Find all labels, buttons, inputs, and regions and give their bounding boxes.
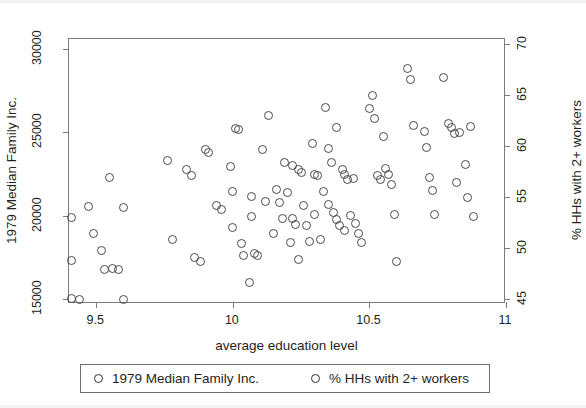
x-tick-label: 10 bbox=[202, 313, 262, 327]
data-point bbox=[390, 210, 399, 219]
data-point bbox=[370, 114, 379, 123]
data-point bbox=[97, 246, 106, 255]
data-point bbox=[163, 156, 172, 165]
data-point bbox=[392, 257, 401, 266]
y-tick-label-left: 30000 bbox=[30, 20, 44, 76]
data-point bbox=[226, 162, 235, 171]
data-point bbox=[439, 73, 448, 82]
data-point bbox=[357, 238, 366, 247]
legend-label-workers: % HHs with 2+ workers bbox=[329, 371, 469, 386]
y-tick-right bbox=[504, 197, 510, 198]
data-point bbox=[302, 221, 311, 230]
legend-entry-workers[interactable]: % HHs with 2+ workers bbox=[311, 371, 469, 386]
x-tick-label: 10.5 bbox=[338, 313, 398, 327]
x-tick bbox=[233, 302, 234, 308]
data-point bbox=[275, 198, 284, 207]
y-tick-right bbox=[504, 248, 510, 249]
data-point bbox=[316, 235, 325, 244]
data-point bbox=[466, 122, 475, 131]
x-tick bbox=[506, 302, 507, 308]
data-point bbox=[278, 214, 287, 223]
legend: 1979 Median Family Inc. % HHs with 2+ wo… bbox=[80, 364, 490, 393]
data-point bbox=[327, 158, 336, 167]
data-point bbox=[420, 127, 429, 136]
data-point bbox=[228, 223, 237, 232]
y-tick-right bbox=[504, 95, 510, 96]
data-point bbox=[119, 203, 128, 212]
data-point bbox=[245, 278, 254, 287]
data-point bbox=[258, 145, 267, 154]
data-point bbox=[332, 123, 341, 132]
data-point bbox=[425, 173, 434, 182]
data-point bbox=[469, 212, 478, 221]
legend-label-income: 1979 Median Family Inc. bbox=[112, 371, 259, 386]
data-point bbox=[324, 144, 333, 153]
data-point bbox=[384, 170, 393, 179]
y-tick-right bbox=[504, 44, 510, 45]
y-tick-label-right: 55 bbox=[515, 178, 529, 214]
data-point bbox=[349, 174, 358, 183]
data-point bbox=[84, 202, 93, 211]
data-point bbox=[461, 160, 470, 169]
y-tick-label-right: 45 bbox=[515, 280, 529, 316]
data-point bbox=[340, 226, 349, 235]
y-tick-label-right: 65 bbox=[515, 76, 529, 112]
y-tick-label-left: 15000 bbox=[30, 270, 44, 326]
data-point bbox=[237, 239, 246, 248]
y-tick-label-right: 70 bbox=[515, 25, 529, 61]
y-axis-title-left: 1979 Median Family Inc. bbox=[4, 38, 19, 303]
data-point bbox=[379, 132, 388, 141]
data-point bbox=[365, 104, 374, 113]
x-tick-label: 11 bbox=[475, 313, 535, 327]
data-point bbox=[168, 235, 177, 244]
data-point bbox=[269, 229, 278, 238]
data-point bbox=[105, 173, 114, 182]
y-tick-right bbox=[504, 299, 510, 300]
data-point bbox=[403, 64, 412, 73]
data-point bbox=[196, 257, 205, 266]
data-point bbox=[387, 180, 396, 189]
data-point bbox=[67, 213, 76, 222]
circle-marker-icon bbox=[311, 374, 320, 383]
data-point bbox=[430, 210, 439, 219]
x-axis-title: average education level bbox=[68, 338, 505, 353]
y-tick-right bbox=[504, 146, 510, 147]
data-point bbox=[455, 128, 464, 137]
data-point bbox=[286, 238, 295, 247]
data-point bbox=[310, 210, 319, 219]
data-point bbox=[283, 188, 292, 197]
data-point bbox=[376, 175, 385, 184]
data-point bbox=[321, 103, 330, 112]
data-point bbox=[239, 251, 248, 260]
data-point bbox=[351, 219, 360, 228]
data-point bbox=[204, 148, 213, 157]
data-point bbox=[253, 251, 262, 260]
data-point bbox=[354, 229, 363, 238]
data-point bbox=[247, 212, 256, 221]
x-tick bbox=[369, 302, 370, 308]
data-point bbox=[463, 193, 472, 202]
data-point bbox=[89, 229, 98, 238]
data-point bbox=[264, 111, 273, 120]
y-axis-title-right: % HHs with 2+ workers bbox=[569, 38, 584, 303]
data-point bbox=[261, 197, 270, 206]
data-point bbox=[305, 237, 314, 246]
y-tick-label-right: 60 bbox=[515, 127, 529, 163]
plot-area bbox=[68, 38, 505, 303]
x-tick bbox=[96, 302, 97, 308]
circle-marker-icon bbox=[94, 374, 103, 383]
data-point bbox=[308, 139, 317, 148]
data-point bbox=[247, 192, 256, 201]
data-point bbox=[272, 185, 281, 194]
data-point bbox=[428, 186, 437, 195]
data-point bbox=[299, 201, 308, 210]
data-point bbox=[75, 295, 84, 304]
data-point bbox=[452, 178, 461, 187]
y-tick-label-right: 50 bbox=[515, 229, 529, 265]
data-point bbox=[294, 255, 303, 264]
data-point bbox=[228, 187, 237, 196]
x-tick-label: 9.5 bbox=[65, 313, 125, 327]
y-tick-label-left: 25000 bbox=[30, 103, 44, 159]
legend-entry-income[interactable]: 1979 Median Family Inc. bbox=[94, 371, 259, 386]
data-point bbox=[406, 75, 415, 84]
